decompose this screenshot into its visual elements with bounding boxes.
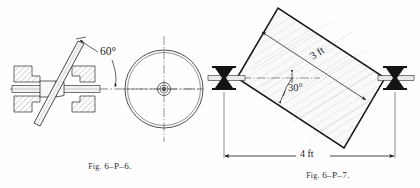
angle-label-30: 30° [288, 82, 303, 93]
disc-face-view [125, 36, 203, 142]
disc-hub-bore [162, 87, 166, 91]
figure-caption-left: Fig. 6–P–6. [60, 161, 160, 171]
dimension-label-4ft: 4 ft [300, 148, 314, 159]
engineering-drawing-canvas [0, 0, 420, 188]
figure-page: 60° 30° 3 ft 4 ft Fig. 6–P–6. Fig. 6–P–7… [0, 0, 420, 188]
left-roller-support [208, 67, 245, 158]
figure-6-p-7-group [208, 8, 414, 158]
right-roller-support [378, 67, 414, 158]
figure-caption-right-prefix: Fig. [306, 171, 319, 180]
angle-label-60: 60° [100, 45, 116, 57]
figure-caption-left-number: 6–P–6. [104, 161, 132, 171]
figure-caption-right: Fig. 6–P–7. [278, 170, 378, 180]
figure-caption-left-prefix: Fig. [88, 162, 101, 171]
figure-caption-right-number: 6–P–7. [322, 170, 350, 180]
